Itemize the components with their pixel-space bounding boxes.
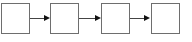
arrow-2-3	[79, 18, 95, 19]
box-2	[50, 3, 79, 34]
box-1	[1, 3, 30, 34]
box-3	[101, 3, 130, 34]
arrow-3-4	[130, 18, 144, 19]
box-4	[151, 3, 180, 34]
arrowhead-icon	[144, 15, 150, 21]
arrow-1-2	[30, 18, 44, 19]
